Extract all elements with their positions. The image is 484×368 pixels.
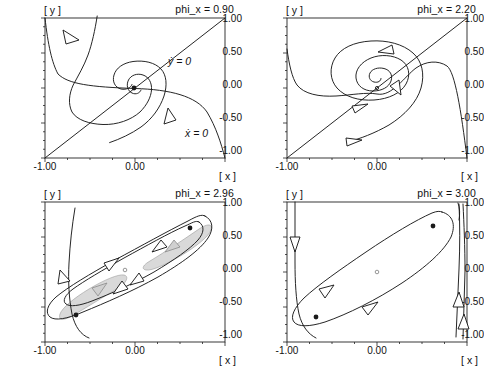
panel-2-arrow-2 [378,45,394,54]
panel-2-plot [242,0,484,184]
panel-3-arrow-4 [130,273,144,285]
panel-4-ticks [283,202,467,346]
panel-3-stable-focus-lower [74,313,79,318]
panel-1-trajectory-upper [69,16,151,125]
panel-1-fixed-points [132,86,137,91]
panel-2-y-nullcline [287,18,467,158]
panel-4-plot [242,184,484,368]
panel-4-stable-focus-upper [431,224,436,229]
panel-1-arrow-2 [164,108,176,124]
panel-2-arrow-4 [390,80,401,95]
panel-1-plot [0,0,242,184]
panel-3-saddle-point [123,268,127,272]
panel-1-trajectory-lower [110,61,166,143]
panel-3-frame [45,202,225,342]
phase-portrait-figure: phi_x = 0.90 [ y ] [ x ] 1.00 0.50 0.00 … [0,0,484,368]
panel-2-curves [287,18,467,158]
panel-1-stable-focus [132,86,137,91]
panel-3-shaded-lobes [60,225,212,319]
panel-1: phi_x = 0.90 [ y ] [ x ] 1.00 0.50 0.00 … [0,0,242,184]
panel-4: phi_x = 3.00 [ y ] [ x ] 1.00 0.50 0.00 … [242,184,484,368]
panel-4-saddle-point [375,270,379,274]
panel-4-left-edge-descending [295,202,316,338]
panel-1-arrowheads [63,30,176,124]
panel-4-stable-focus-lower [314,315,319,320]
panel-3-arrow-1 [104,258,119,271]
panel-2-x-nullcline [287,49,467,158]
panel-2: phi_x = 2.20 [ y ] [ x ] 1.00 0.50 0.00 … [242,0,484,184]
panel-3-incoming-left [69,208,89,338]
panel-3: phi_x = 2.96 [ y ] [ x ] 1.00 0.50 0.00 … [0,184,242,368]
panel-3-plot [0,184,242,368]
panel-2-arrow-1 [346,138,362,146]
panel-4-arrow-loop-lower [362,302,378,315]
panel-4-right-edge-1 [456,204,460,337]
panel-1-arrow-1 [63,30,79,44]
panel-3-stable-focus-upper [188,226,193,231]
panel-2-outer-spiral [331,41,423,142]
panel-4-arrow-loop-left [319,285,334,298]
panel-2-arrow-3 [352,104,368,113]
panel-4-frame [287,202,467,342]
panel-4-arrow-left-edge [290,237,300,252]
panel-4-curves [292,202,465,339]
panel-3-curves [47,208,212,338]
panel-4-arrow-right-1 [453,292,464,307]
